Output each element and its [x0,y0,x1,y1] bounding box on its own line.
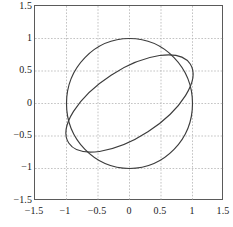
figure: 1.5 1 0.5 0 −0.5 −1 −1.5 [0,0,233,227]
x-axis-tick-labels: −1.5 −1 −0.5 0 0.5 1 1.5 [0,0,233,227]
x-tick-label-7: 1.5 [203,206,233,216]
